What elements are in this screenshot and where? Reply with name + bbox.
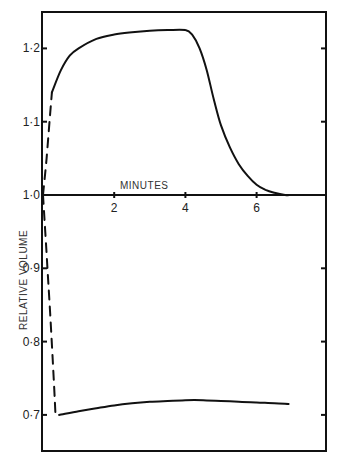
y-tick-label: 0·8 (23, 335, 41, 349)
y-axis-title: RELATIVE VOLUME (18, 230, 29, 330)
series-line-0 (43, 92, 52, 195)
x-axis-title: MINUTES (120, 180, 169, 191)
x-tick-label: 6 (253, 201, 260, 215)
y-tick-label: 0·7 (23, 408, 41, 422)
series-line-2 (43, 195, 56, 415)
relative-volume-chart: 2461·21·11·00·90·80·7 MINUTES RELATIVE V… (0, 0, 338, 459)
data-series (43, 30, 303, 415)
series-line-3 (59, 400, 289, 415)
y-tick-label: 1·1 (23, 115, 41, 129)
plot-border (42, 12, 326, 451)
x-tick-label: 2 (111, 201, 118, 215)
x-tick-label: 4 (182, 201, 189, 215)
y-tick-label: 1·0 (23, 188, 41, 202)
axis-ticks: 2461·21·11·00·90·80·7 (23, 41, 326, 422)
y-tick-label: 1·2 (23, 41, 41, 55)
series-line-1 (52, 30, 303, 196)
plot-frame (42, 12, 326, 451)
